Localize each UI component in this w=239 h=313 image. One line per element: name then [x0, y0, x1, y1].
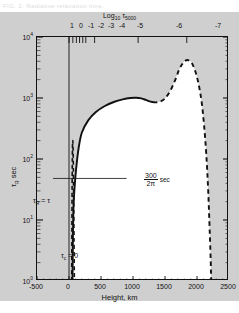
top-axis-title: Log10 τ5000 — [0, 12, 239, 21]
x-tick-label-1000: 1000 — [124, 283, 140, 290]
y-axis-title: τR sec — [9, 167, 20, 187]
figure-panel: Log10 τ5000 1 0 -1 -2 -3 -4 -5 -6 -7 104… — [0, 12, 239, 301]
top-tick-label--7: -7 — [215, 22, 221, 29]
y-tick-label-1e4: 104 — [8, 31, 33, 40]
top-tick-label--2: -2 — [98, 22, 104, 29]
x-tick-label-2000: 2000 — [188, 283, 204, 290]
x-tick-label--500: -500 — [29, 283, 43, 290]
y-tick-label-1e1: 101 — [8, 214, 33, 223]
fraction: 300 2π — [144, 172, 158, 188]
top-tick-label-0: 0 — [79, 22, 83, 29]
y-tick-label-1e2: 102 — [8, 153, 33, 162]
plot-clip — [37, 37, 227, 279]
tau-c-equals-zero-annotation: τc = 0 — [61, 252, 78, 261]
top-tick-label--4: -4 — [119, 22, 125, 29]
x-axis-title: Height, km — [0, 293, 239, 302]
fraction-numerator: 300 — [144, 172, 158, 180]
top-tick-label--6: -6 — [176, 22, 182, 29]
x-tick-label-0: 0 — [66, 283, 70, 290]
x-tick-label-500: 500 — [94, 283, 106, 290]
top-tick-label--3: -3 — [108, 22, 114, 29]
x-tick-label-2500: 2500 — [220, 283, 236, 290]
plot-area — [36, 36, 228, 280]
fraction-denominator: 2π — [144, 180, 158, 187]
chart-svg — [37, 37, 227, 279]
top-tick-label--5: -5 — [137, 22, 143, 29]
x-tick-label-1500: 1500 — [156, 283, 172, 290]
y-tick-label-1e3: 103 — [8, 92, 33, 101]
fraction-unit: sec — [160, 176, 170, 183]
tau-r-equals-tau-annotation: τR = τ — [33, 197, 50, 206]
top-tick-label-1: 1 — [70, 22, 74, 29]
reference-line-annotation: 300 2π sec — [144, 172, 170, 188]
top-tick-label--1: -1 — [88, 22, 94, 29]
figure-caption: FIG. 2. Radiative relaxation time. — [0, 0, 239, 12]
